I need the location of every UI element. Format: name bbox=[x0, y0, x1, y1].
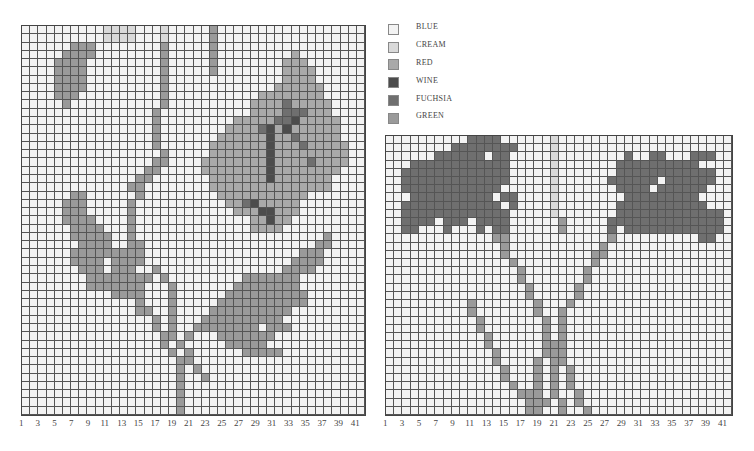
grid-cell bbox=[30, 109, 38, 117]
grid-cell bbox=[38, 324, 46, 332]
grid-cell bbox=[22, 374, 30, 382]
grid-cell bbox=[63, 92, 71, 100]
grid-cell bbox=[96, 167, 104, 175]
grid-cell bbox=[38, 208, 46, 216]
grid-cell bbox=[79, 316, 87, 324]
grid-cell bbox=[493, 193, 501, 201]
grid-cell bbox=[625, 284, 633, 292]
grid-cell bbox=[300, 117, 308, 125]
grid-cell bbox=[177, 225, 185, 233]
grid-cell bbox=[259, 117, 267, 125]
grid-cell bbox=[332, 167, 340, 175]
grid-cell bbox=[460, 185, 468, 193]
grid-cell bbox=[683, 152, 691, 160]
grid-cell bbox=[136, 100, 144, 108]
grid-cell bbox=[600, 366, 608, 374]
grid-cell bbox=[666, 226, 674, 234]
grid-cell bbox=[617, 234, 625, 242]
grid-cell bbox=[625, 317, 633, 325]
grid-cell bbox=[300, 382, 308, 390]
grid-cell bbox=[386, 251, 394, 259]
grid-cell bbox=[699, 407, 707, 415]
grid-cell bbox=[427, 226, 435, 234]
grid-cell bbox=[308, 274, 316, 282]
grid-cell bbox=[194, 183, 202, 191]
grid-cell bbox=[202, 134, 210, 142]
grid-cell bbox=[128, 84, 136, 92]
grid-cell bbox=[357, 76, 365, 84]
grid-cell bbox=[96, 92, 104, 100]
grid-cell bbox=[177, 109, 185, 117]
grid-cell bbox=[485, 202, 493, 210]
grid-cell bbox=[226, 291, 234, 299]
grid-cell bbox=[559, 333, 567, 341]
grid-cell bbox=[633, 399, 641, 407]
grid-cell bbox=[87, 192, 95, 200]
grid-cell bbox=[79, 283, 87, 291]
grid-cell bbox=[194, 225, 202, 233]
grid-cell bbox=[526, 349, 534, 357]
grid-cell bbox=[575, 382, 583, 390]
grid-cell bbox=[63, 225, 71, 233]
grid-cell bbox=[38, 316, 46, 324]
grid-cell bbox=[292, 84, 300, 92]
grid-cell bbox=[468, 300, 476, 308]
grid-cell bbox=[218, 67, 226, 75]
grid-cell bbox=[145, 125, 153, 133]
grid-cell bbox=[608, 226, 616, 234]
grid-cell bbox=[300, 266, 308, 274]
grid-cell bbox=[493, 292, 501, 300]
grid-cell bbox=[267, 291, 275, 299]
grid-cell bbox=[128, 266, 136, 274]
grid-cell bbox=[104, 241, 112, 249]
grid-cell bbox=[641, 251, 649, 259]
grid-cell bbox=[22, 208, 30, 216]
x-tick-label: 39 bbox=[334, 418, 342, 428]
grid-cell bbox=[650, 136, 658, 144]
grid-cell bbox=[161, 134, 169, 142]
grid-cell bbox=[259, 283, 267, 291]
grid-cell bbox=[493, 382, 501, 390]
grid-cell bbox=[518, 202, 526, 210]
grid-cell bbox=[136, 374, 144, 382]
grid-cell bbox=[153, 158, 161, 166]
grid-cell bbox=[707, 374, 715, 382]
grid-cell bbox=[96, 216, 104, 224]
grid-cell bbox=[386, 407, 394, 415]
grid-cell bbox=[600, 161, 608, 169]
grid-cell bbox=[559, 358, 567, 366]
grid-cell bbox=[493, 366, 501, 374]
grid-cell bbox=[707, 136, 715, 144]
grid-cell bbox=[47, 390, 55, 398]
grid-cell bbox=[650, 358, 658, 366]
grid-cell bbox=[104, 357, 112, 365]
grid-cell bbox=[87, 34, 95, 42]
grid-cell bbox=[324, 84, 332, 92]
grid-cell bbox=[724, 136, 732, 144]
grid-cell bbox=[30, 51, 38, 59]
grid-cell bbox=[194, 84, 202, 92]
grid-cell bbox=[169, 382, 177, 390]
grid-cell bbox=[79, 200, 87, 208]
grid-cell bbox=[386, 161, 394, 169]
grid-cell bbox=[510, 366, 518, 374]
grid-cell bbox=[104, 324, 112, 332]
grid-cell bbox=[666, 218, 674, 226]
grid-cell bbox=[518, 243, 526, 251]
legend-item-red: RED bbox=[388, 54, 452, 72]
grid-cell bbox=[666, 366, 674, 374]
grid-cell bbox=[518, 317, 526, 325]
grid-cell bbox=[145, 134, 153, 142]
grid-cell bbox=[650, 407, 658, 415]
grid-cell bbox=[551, 275, 559, 283]
grid-cell bbox=[243, 307, 251, 315]
grid-cell bbox=[658, 325, 666, 333]
grid-cell bbox=[567, 284, 575, 292]
grid-cell bbox=[608, 390, 616, 398]
grid-cell bbox=[510, 169, 518, 177]
grid-cell bbox=[308, 125, 316, 133]
grid-cell bbox=[259, 390, 267, 398]
grid-cell bbox=[169, 100, 177, 108]
grid-cell bbox=[332, 266, 340, 274]
grid-cell bbox=[177, 324, 185, 332]
